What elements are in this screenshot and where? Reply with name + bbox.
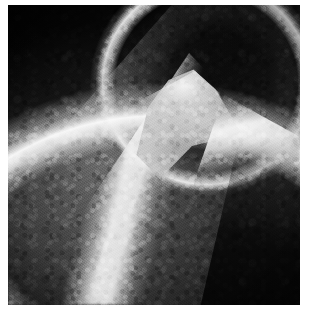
dark-background-field-bottom-right xyxy=(8,5,300,305)
central-cusp-highlight xyxy=(8,5,300,305)
skin-line-border xyxy=(8,5,300,305)
page-margin-right xyxy=(300,0,313,317)
page-margin-bottom xyxy=(0,305,313,317)
image-viewer xyxy=(0,0,313,317)
superior-rim-arc xyxy=(8,5,300,305)
parenchymal-texture-coarse xyxy=(8,5,300,305)
film-vignette xyxy=(8,5,300,305)
page-margin-left xyxy=(0,0,8,317)
tissue-body-mass-layer xyxy=(8,5,300,305)
film-base-layer xyxy=(8,5,300,305)
radiograph-image xyxy=(8,5,300,305)
parenchymal-texture-fine xyxy=(8,5,300,305)
dark-lobe-region xyxy=(8,5,300,305)
dark-background-field-top-left xyxy=(8,5,300,305)
dark-lobe-bright-rim xyxy=(8,5,300,305)
main-diagonal-band xyxy=(8,5,300,305)
film-grain-texture xyxy=(8,5,300,305)
page-margin-top xyxy=(0,0,313,5)
central-cusp-fill xyxy=(8,5,300,305)
right-diagonal-ridge xyxy=(8,5,300,305)
